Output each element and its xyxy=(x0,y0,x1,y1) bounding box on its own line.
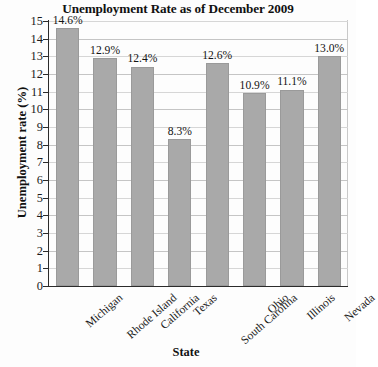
y-tick-label: 13 xyxy=(17,50,43,62)
bar xyxy=(93,58,116,286)
y-tick-label: 14 xyxy=(17,33,43,45)
bar xyxy=(243,93,266,286)
bar xyxy=(280,90,303,286)
bar-value-label: 11.1% xyxy=(269,76,315,88)
y-tick-mark xyxy=(43,286,49,287)
y-tick-label: 4 xyxy=(17,209,43,221)
bar xyxy=(56,28,79,286)
bar-value-label: 14.6% xyxy=(45,15,91,27)
x-axis-title: State xyxy=(48,345,324,360)
bar-value-label: 8.3% xyxy=(157,126,203,138)
y-tick-label: 10 xyxy=(17,103,43,115)
bar-value-label: 12.4% xyxy=(119,53,165,65)
y-tick-label: 1 xyxy=(17,262,43,274)
bar-value-label: 13.0% xyxy=(306,43,352,55)
y-tick-label: 5 xyxy=(17,192,43,204)
y-tick-label: 6 xyxy=(17,174,43,186)
y-tick-label: 7 xyxy=(17,156,43,168)
x-tick-label: Illinois xyxy=(305,292,337,322)
bar xyxy=(318,56,341,286)
y-tick-label: 15 xyxy=(17,15,43,27)
y-tick-label: 2 xyxy=(17,245,43,257)
gridline xyxy=(49,39,348,40)
y-tick-label: 12 xyxy=(17,68,43,80)
y-tick-label: 0 xyxy=(17,280,43,292)
gridline xyxy=(49,21,348,22)
bar xyxy=(206,63,229,286)
bar xyxy=(168,139,191,286)
bar xyxy=(131,67,154,286)
y-tick-label: 9 xyxy=(17,121,43,133)
y-tick-label: 11 xyxy=(17,86,43,98)
x-tick-label: Nevada xyxy=(343,292,377,324)
y-tick-label: 8 xyxy=(17,139,43,151)
bar-value-label: 12.6% xyxy=(194,50,240,62)
x-tick-label: Michigan xyxy=(84,292,125,330)
y-tick-label: 3 xyxy=(17,227,43,239)
